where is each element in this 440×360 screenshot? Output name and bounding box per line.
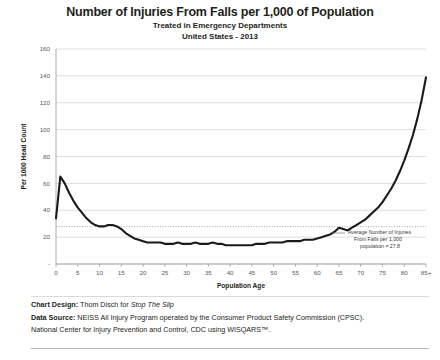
x-tick-label: 15 bbox=[118, 269, 125, 276]
y-tick-label: 20 bbox=[43, 233, 50, 240]
x-tick-label: 85+ bbox=[421, 269, 432, 276]
annotation-line: From Falls per 1,000 bbox=[354, 236, 402, 242]
x-tick-label: 30 bbox=[183, 269, 190, 276]
chart-subtitle-1: Treated in Emergency Departments bbox=[0, 20, 440, 31]
y-tick-label: 140 bbox=[40, 72, 51, 79]
annotation-line: Average Number of Injuries bbox=[348, 229, 411, 235]
chart-design-brand: Stop The Slip bbox=[131, 300, 174, 309]
x-tick-label: 40 bbox=[227, 269, 234, 276]
x-tick-label: 60 bbox=[314, 269, 321, 276]
chart-design-label: Chart Design: bbox=[31, 300, 78, 309]
x-tick-label: 10 bbox=[96, 269, 103, 276]
x-tick-label: 80 bbox=[401, 269, 408, 276]
data-source-value: NEISS All Injury Program operated by the… bbox=[75, 313, 364, 322]
y-tick-label: 160 bbox=[40, 45, 51, 52]
y-tick-label: 80 bbox=[43, 153, 50, 160]
chart-design-value: Thom Disch for bbox=[78, 300, 131, 309]
y-tick-label: 120 bbox=[40, 99, 51, 106]
x-tick-label: 70 bbox=[357, 269, 364, 276]
data-source-line-2: National Center for Injury Prevention an… bbox=[31, 325, 429, 335]
x-tick-label: 50 bbox=[270, 269, 277, 276]
chart-header: Number of Injuries From Falls per 1,000 … bbox=[0, 0, 440, 42]
y-tick-label: - bbox=[48, 260, 50, 267]
y-axis-title: Per 1000 Head Count bbox=[20, 123, 27, 190]
footer-notes: Chart Design: Thom Disch for Stop The Sl… bbox=[31, 300, 429, 338]
annotation-line: population = 27.8 bbox=[360, 243, 400, 249]
page-title: Number of Injuries From Falls per 1,000 … bbox=[0, 5, 440, 20]
footer-divider-bottom bbox=[31, 348, 429, 349]
chart-plot-area: -204060801001201401600510152025303540455… bbox=[0, 42, 440, 297]
x-tick-label: 35 bbox=[205, 269, 212, 276]
x-tick-label: 20 bbox=[140, 269, 147, 276]
x-tick-label: 75 bbox=[379, 269, 386, 276]
x-tick-label: 65 bbox=[335, 269, 342, 276]
x-tick-label: 45 bbox=[248, 269, 255, 276]
line-chart: -204060801001201401600510152025303540455… bbox=[0, 42, 440, 297]
chart-design-line: Chart Design: Thom Disch for Stop The Sl… bbox=[31, 300, 429, 310]
data-source-label: Data Source: bbox=[31, 313, 75, 322]
x-tick-label: 0 bbox=[54, 269, 58, 276]
x-tick-label: 55 bbox=[292, 269, 299, 276]
chart-subtitle-2: United States - 2013 bbox=[0, 31, 440, 42]
y-tick-label: 60 bbox=[43, 180, 50, 187]
x-tick-label: 5 bbox=[76, 269, 80, 276]
x-tick-label: 25 bbox=[161, 269, 168, 276]
y-tick-label: 40 bbox=[43, 206, 50, 213]
y-tick-label: 100 bbox=[40, 126, 51, 133]
x-axis-title: Population Age bbox=[217, 282, 265, 290]
footer-divider-top bbox=[31, 296, 429, 297]
data-source-line: Data Source: NEISS All Injury Program op… bbox=[31, 313, 429, 323]
